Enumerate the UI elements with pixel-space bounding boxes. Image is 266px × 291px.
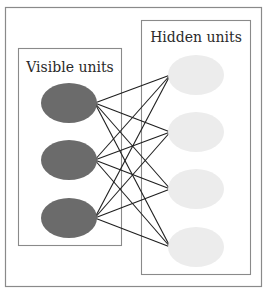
visible-unit-node-v2 <box>41 140 97 180</box>
rbm-diagram: Visible units Hidden units <box>0 0 266 291</box>
hidden-units-label: Hidden units <box>150 29 242 45</box>
visible-unit-node-v1 <box>41 83 97 123</box>
hidden-unit-node-h2 <box>168 112 224 152</box>
hidden-unit-node-h3 <box>168 169 224 209</box>
visible-units-label: Visible units <box>25 59 114 75</box>
hidden-unit-node-h4 <box>168 227 224 267</box>
hidden-unit-node-h1 <box>168 55 224 95</box>
visible-unit-node-v3 <box>41 198 97 238</box>
visible-nodes <box>41 83 97 238</box>
